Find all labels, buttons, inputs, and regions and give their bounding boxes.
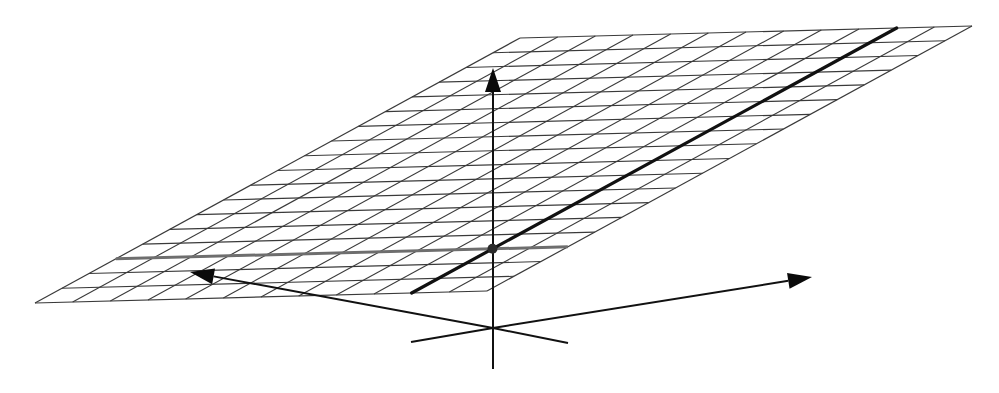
grid-column-line [487, 26, 972, 291]
left-axis-negative-line [493, 328, 568, 343]
grid-column-line [110, 36, 595, 301]
grid-column-line [374, 29, 859, 294]
coordinate-axes [190, 68, 812, 369]
right-axis-negative-line [411, 328, 493, 342]
grid-column-line [223, 33, 708, 298]
highlighted-column-line [412, 28, 897, 293]
grid-column-line [336, 30, 821, 295]
plane-grid [35, 26, 972, 303]
grid-column-line [449, 27, 934, 292]
plane-diagram [0, 0, 999, 393]
right-axis-line [493, 281, 788, 328]
grid-column-line [73, 37, 558, 302]
right-axis-arrowhead-icon [787, 273, 812, 289]
grid-column-line [299, 31, 784, 296]
grid-column-line [148, 35, 633, 300]
highlighted-row-line [116, 247, 568, 259]
grid-column-line [261, 32, 746, 297]
left-axis-line [214, 276, 493, 328]
vertical-axis-arrowhead-icon [485, 68, 501, 92]
grid-column-line [186, 34, 671, 299]
intersection-point [488, 244, 498, 254]
grid-column-line [35, 38, 520, 303]
